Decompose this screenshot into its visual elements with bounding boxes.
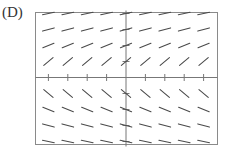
slope-segment bbox=[159, 140, 171, 142]
slope-segment bbox=[63, 58, 72, 66]
slope-segment bbox=[101, 140, 113, 142]
slope-segment bbox=[62, 124, 74, 127]
slope-segment bbox=[44, 90, 53, 98]
slope-segment bbox=[198, 140, 210, 142]
slope-segment bbox=[178, 140, 190, 142]
slope-segment bbox=[140, 124, 152, 127]
slope-segment bbox=[198, 43, 209, 48]
slope-segment bbox=[63, 90, 72, 98]
slope-segment bbox=[180, 58, 189, 66]
slope-segment bbox=[101, 28, 113, 31]
slope-segment bbox=[159, 43, 170, 48]
slope-segment bbox=[141, 58, 150, 66]
slope-segment bbox=[82, 107, 93, 112]
slope-segment bbox=[81, 140, 93, 142]
slope-segment bbox=[102, 58, 111, 66]
slope-segment bbox=[102, 90, 111, 98]
slope-segment bbox=[198, 124, 210, 127]
slope-segment bbox=[43, 28, 55, 31]
slope-segment bbox=[81, 124, 93, 127]
slope-segment bbox=[179, 43, 190, 48]
slope-segment bbox=[43, 107, 54, 112]
slope-segment bbox=[159, 124, 171, 127]
slope-segment bbox=[180, 90, 189, 98]
slope-segment bbox=[62, 43, 73, 48]
slope-segment bbox=[160, 58, 169, 66]
slope-segment bbox=[101, 124, 113, 127]
slope-field-plot bbox=[0, 0, 229, 159]
slope-segment bbox=[62, 107, 73, 112]
slope-segment bbox=[198, 107, 209, 112]
slope-segment bbox=[81, 28, 93, 31]
slope-segment bbox=[83, 58, 92, 66]
slope-segment bbox=[198, 28, 210, 31]
slope-segment bbox=[62, 28, 74, 31]
slope-segment bbox=[101, 43, 112, 48]
slope-segment bbox=[43, 43, 54, 48]
slope-segment bbox=[43, 124, 55, 127]
slope-segment bbox=[140, 140, 152, 142]
slope-segment bbox=[82, 43, 93, 48]
slope-segment bbox=[178, 124, 190, 127]
slope-segment bbox=[141, 90, 150, 98]
slope-segment bbox=[101, 107, 112, 112]
slope-segment bbox=[62, 140, 74, 142]
slope-segment bbox=[140, 43, 151, 48]
slope-segment bbox=[179, 107, 190, 112]
slope-segment bbox=[178, 28, 190, 31]
slope-segment bbox=[160, 90, 169, 98]
slope-segment bbox=[159, 107, 170, 112]
slope-segment bbox=[83, 90, 92, 98]
slope-segment bbox=[43, 140, 55, 142]
slope-segment bbox=[159, 28, 171, 31]
slope-segment bbox=[44, 58, 53, 66]
slope-segment bbox=[140, 107, 151, 112]
slope-segment bbox=[199, 58, 208, 66]
slope-segment bbox=[199, 90, 208, 98]
slope-segment bbox=[140, 28, 152, 31]
